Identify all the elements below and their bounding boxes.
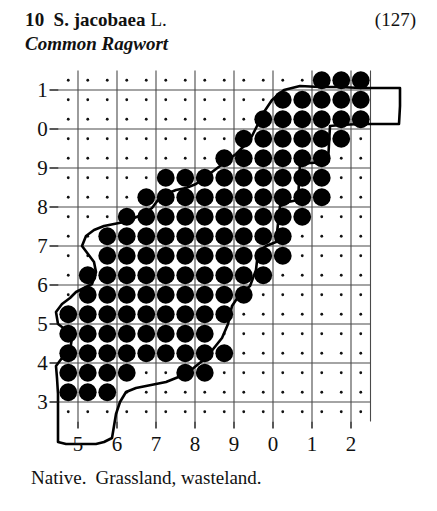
empty-cell-dot (223, 410, 226, 413)
record-dot (176, 208, 194, 226)
empty-cell-dot (145, 79, 148, 82)
record-dot (196, 266, 214, 284)
record-dot (352, 71, 370, 89)
empty-cell-dot (281, 79, 284, 82)
record-dot (118, 227, 136, 245)
record-dot (79, 344, 97, 362)
record-dot (215, 266, 233, 284)
empty-cell-dot (320, 332, 323, 335)
empty-cell-dot (359, 371, 362, 374)
empty-cell-dot (242, 371, 245, 374)
record-dot (254, 266, 272, 284)
distribution-map-svg: 56789012109876543 (0, 66, 437, 456)
record-dot (176, 227, 194, 245)
empty-cell-dot (184, 391, 187, 394)
empty-cell-dot (106, 196, 109, 199)
record-dot (332, 71, 350, 89)
page-reference: (127) (375, 8, 416, 32)
empty-cell-dot (164, 391, 167, 394)
empty-cell-dot (125, 410, 128, 413)
record-dot (313, 110, 331, 128)
empty-cell-dot (340, 332, 343, 335)
record-dot (215, 149, 233, 167)
empty-cell-dot (145, 176, 148, 179)
record-dot (157, 227, 175, 245)
empty-cell-dot (281, 352, 284, 355)
empty-cell-dot (359, 176, 362, 179)
record-dot (137, 286, 155, 304)
record-dot (235, 227, 253, 245)
empty-cell-dot (125, 137, 128, 140)
empty-cell-dot (67, 215, 70, 218)
record-dot (313, 71, 331, 89)
record-dot (332, 91, 350, 109)
empty-cell-dot (125, 79, 128, 82)
record-dot (79, 364, 97, 382)
record-dot (176, 266, 194, 284)
empty-cell-dot (223, 79, 226, 82)
record-dot (176, 364, 194, 382)
record-dot (215, 247, 233, 265)
record-dot (98, 383, 116, 401)
empty-cell-dot (164, 371, 167, 374)
empty-cell-dot (242, 79, 245, 82)
record-dot (293, 91, 311, 109)
empty-cell-dot (301, 254, 304, 257)
record-dot (215, 286, 233, 304)
record-dot (79, 305, 97, 323)
record-dot (332, 130, 350, 148)
empty-cell-dot (281, 410, 284, 413)
empty-cell-dot (125, 98, 128, 101)
habitat-note: Native.Grassland, wasteland. (31, 466, 262, 490)
record-dot (59, 325, 77, 343)
record-dot (118, 286, 136, 304)
x-tick-label: 8 (190, 432, 201, 456)
empty-cell-dot (340, 215, 343, 218)
empty-cell-dot (184, 79, 187, 82)
empty-cell-dot (340, 274, 343, 277)
x-tick-label: 9 (229, 432, 240, 456)
record-dot (293, 149, 311, 167)
x-tick-label: 1 (307, 432, 318, 456)
empty-cell-dot (320, 371, 323, 374)
empty-cell-dot (145, 157, 148, 160)
record-dot (118, 325, 136, 343)
empty-cell-dot (281, 293, 284, 296)
empty-cell-dot (164, 137, 167, 140)
empty-cell-dot (320, 313, 323, 316)
empty-cell-dot (164, 79, 167, 82)
empty-cell-dot (301, 313, 304, 316)
record-dot (118, 247, 136, 265)
empty-cell-dot (301, 79, 304, 82)
y-tick-label: 8 (37, 195, 48, 219)
empty-cell-dot (320, 254, 323, 257)
empty-cell-dot (242, 410, 245, 413)
empty-cell-dot (67, 79, 70, 82)
empty-cell-dot (106, 118, 109, 121)
empty-cell-dot (125, 157, 128, 160)
record-dot (235, 130, 253, 148)
record-dot (215, 305, 233, 323)
record-dot (59, 383, 77, 401)
empty-cell-dot (262, 79, 265, 82)
record-dot (215, 169, 233, 187)
empty-cell-dot (340, 371, 343, 374)
distribution-map: 56789012109876543 (0, 66, 437, 456)
record-dot (98, 344, 116, 362)
record-dot (157, 188, 175, 206)
x-tick-label: 7 (151, 432, 162, 456)
record-dot (157, 247, 175, 265)
record-dot (176, 169, 194, 187)
empty-cell-dot (301, 391, 304, 394)
empty-cell-dot (145, 410, 148, 413)
empty-cell-dot (320, 352, 323, 355)
record-dot (215, 344, 233, 362)
record-dot (235, 169, 253, 187)
y-tick-label: 1 (37, 78, 48, 102)
empty-cell-dot (145, 98, 148, 101)
empty-cell-dot (125, 176, 128, 179)
record-dot (274, 227, 292, 245)
empty-cell-dot (359, 215, 362, 218)
empty-cell-dot (262, 410, 265, 413)
empty-cell-dot (86, 410, 89, 413)
